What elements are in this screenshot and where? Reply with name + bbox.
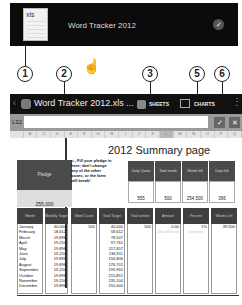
sheet-title: 2012 Summary page (108, 144, 210, 156)
column-header[interactable]: G (92, 131, 106, 138)
column-header[interactable]: J (133, 131, 147, 138)
stat-value[interactable]: 254,500 (182, 181, 208, 203)
column-header[interactable]: F (78, 131, 92, 138)
cancel-button[interactable]: ✕ (229, 117, 240, 128)
amount-ahead-column: 0.00 (155, 224, 181, 294)
charts-icon[interactable] (180, 99, 190, 108)
spreadsheet-grid[interactable]: 2012 Summary page Pledge 255,000 <-- Fil… (10, 138, 242, 298)
stat-words-left: Words left 254,500 (182, 161, 208, 203)
stat-value[interactable]: 500 (155, 181, 181, 203)
monthly-target-column: 40,000 18,612 19,896 19,254 19,896 19,25… (45, 224, 68, 294)
goal-target-column: 40,000 58,612 78,507 97,761 117,657 136,… (99, 224, 125, 294)
callout-leader-1 (25, 46, 26, 66)
goal-cell[interactable]: 255,000 (100, 283, 124, 288)
notification-banner[interactable]: xls Word Tracker 2012 ✓ (10, 3, 238, 46)
total-written-cell[interactable]: 500 (128, 224, 152, 229)
spreadsheet-icon (27, 21, 46, 39)
percent-cell[interactable]: 1% (184, 224, 208, 229)
stat-label: Total words (155, 161, 181, 181)
tap-hand-icon: ☝ (83, 58, 100, 74)
column-header[interactable]: M (174, 131, 188, 138)
column-headers: B C D E F G H I J K L M N O P Q (10, 131, 242, 138)
header-goal-target: Goal Target (99, 208, 125, 224)
header-word-count: Word Count (71, 208, 97, 224)
sheets-button[interactable]: SHEETS (149, 101, 169, 107)
callout-1: 1 (17, 66, 33, 82)
month-cell[interactable]: September (18, 267, 42, 272)
sheets-icon[interactable] (137, 100, 146, 109)
column-header[interactable]: N (187, 131, 201, 138)
overflow-menu-icon[interactable]: ⋮ (232, 96, 242, 107)
formula-bar: L32 ✓ ✕ (10, 114, 242, 131)
word-count-column: 500 (71, 224, 97, 294)
stat-label: Daily Quota (128, 161, 154, 181)
stat-value[interactable]: 366 (209, 181, 235, 203)
stat-days-left: Days left 366 (209, 161, 235, 203)
words-left-column: 39,500 (211, 224, 237, 294)
column-header[interactable]: B (24, 131, 38, 138)
header-percent-complete: Percent complete (183, 208, 209, 224)
app-logo-icon (21, 99, 31, 109)
column-header[interactable]: C (37, 131, 51, 138)
charts-button[interactable]: CHARTS (194, 101, 215, 107)
xls-file-thumbnail: xls (23, 8, 48, 41)
column-header[interactable]: I (119, 131, 133, 138)
column-header[interactable]: H (105, 131, 119, 138)
checkmark-icon[interactable]: ✓ (213, 19, 224, 30)
stat-total-words: Total words 500 (155, 161, 181, 203)
stat-daily-quota: Daily Quota 555 (128, 161, 154, 203)
column-header[interactable]: O (201, 131, 215, 138)
column-header[interactable]: P (215, 131, 229, 138)
column-header-selected[interactable]: L (160, 131, 174, 138)
stat-value[interactable]: 555 (128, 181, 154, 203)
total-written-column: 500 (127, 224, 153, 294)
callout-5: 5 (189, 66, 205, 82)
pledge-note: <-- Fill your pledge in here; don't chan… (71, 158, 113, 183)
cell-reference[interactable]: L32 (12, 119, 22, 125)
column-header[interactable] (10, 131, 24, 138)
month-cell[interactable]: December (18, 283, 42, 288)
word-count-cell[interactable]: 500 (72, 224, 96, 229)
month-column: January February March April May June Ju… (17, 224, 43, 294)
pledge-value-cell[interactable]: 255,000 (17, 190, 72, 207)
header-monthly-target: Monthly Target (45, 208, 68, 224)
file-extension-label: xls (26, 11, 35, 18)
column-header[interactable]: K (146, 131, 160, 138)
target-cell[interactable]: 19,896 (46, 283, 67, 288)
pledge-label: Pledge (17, 160, 72, 190)
back-chevron-icon[interactable]: ‹ (13, 98, 16, 108)
column-header[interactable]: E (65, 131, 79, 138)
document-title[interactable]: Word Tracker 2012.xls ... (34, 98, 134, 108)
header-month: Month (17, 208, 43, 224)
stat-label: Days left (209, 161, 235, 181)
notification-title: Word Tracker 2012 (68, 21, 136, 30)
percent-complete-column: 1% (183, 224, 209, 294)
callout-2: 2 (56, 66, 72, 82)
app-toolbar: ‹ Word Tracker 2012.xls ... SHEETS CHART… (10, 94, 242, 114)
stat-label: Words left (182, 161, 208, 181)
callout-6: 6 (214, 66, 230, 82)
table-bottom-border (17, 295, 239, 296)
formula-input[interactable] (24, 116, 208, 128)
column-header[interactable]: D (51, 131, 65, 138)
words-left-cell[interactable]: 39,500 (212, 224, 236, 229)
header-total-written: Total written (127, 208, 153, 224)
amount-ahead-cell[interactable]: 0.00 (156, 224, 180, 229)
callout-3: 3 (142, 66, 158, 82)
header-amount-ahead: Amount ahead/behind (155, 208, 181, 224)
column-header[interactable]: Q (228, 131, 242, 138)
header-words-left: Words Left (211, 208, 237, 224)
confirm-button[interactable]: ✓ (214, 117, 225, 128)
